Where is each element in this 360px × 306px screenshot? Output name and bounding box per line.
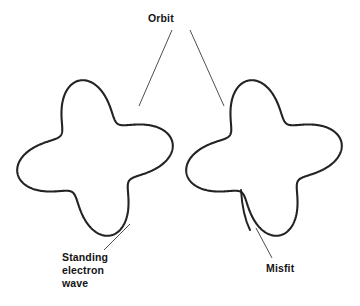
label-orbit: Orbit [148,12,174,25]
label-misfit: Misfit [266,262,294,275]
label-standing-line-3: wave [62,277,88,289]
misfit-standing-wave-orbit [186,80,342,236]
label-standing-electron-wave: Standingelectronwave [62,251,108,290]
leader-orbit-left [139,30,172,106]
leader-orbit-right [190,30,224,106]
label-standing-line-1: Standing [62,251,108,263]
label-standing-line-2: electron [62,264,104,276]
diagram-canvas [0,0,360,306]
leader-standing-wave [104,224,130,250]
closed-standing-wave-orbit [17,80,173,236]
standing-wave-curve [17,80,173,236]
standing-wave-curve-misfit [186,80,342,236]
